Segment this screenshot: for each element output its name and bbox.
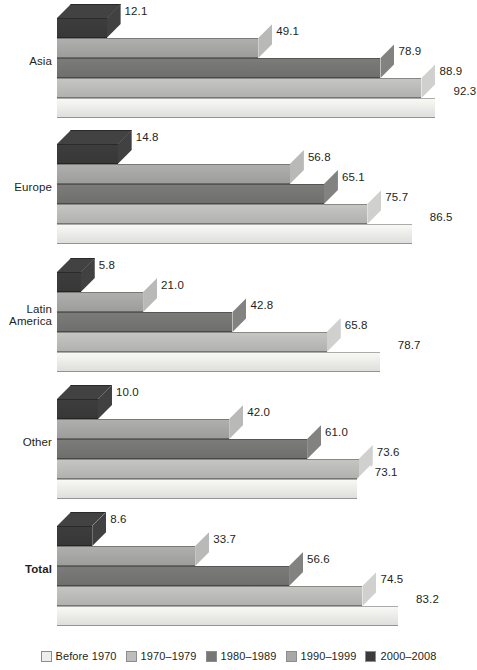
bar-front-face: [57, 58, 380, 78]
legend-swatch-icon: [206, 651, 217, 662]
category-label: Other: [0, 436, 52, 449]
bar-3d[interactable]: [57, 566, 289, 586]
bar-value-label: 83.2: [416, 593, 439, 605]
category-label: Total: [0, 563, 52, 576]
bar-3d[interactable]: [57, 546, 195, 566]
bar-front-face: [57, 292, 143, 312]
bar-front-face: [57, 459, 359, 479]
legend-label: 1980–1989: [221, 650, 277, 662]
bar-3d[interactable]: [57, 38, 258, 58]
bar-front-face: [57, 586, 362, 606]
bar-value-label: 75.7: [385, 191, 408, 203]
bar-value-label: 86.5: [430, 211, 453, 223]
bar-3d[interactable]: [57, 332, 327, 352]
legend-item-3[interactable]: 1990–1999: [286, 650, 357, 662]
bar-end-cap: [367, 190, 381, 224]
bar-value-label: 78.9: [398, 45, 421, 57]
bar-value-label: 5.8: [99, 259, 115, 271]
bar-end-cap: [289, 552, 303, 586]
bar-end-cap: [143, 278, 157, 312]
bar-front-face: [57, 439, 307, 459]
bar-end-cap: [380, 44, 394, 78]
bar-end-cap: [195, 532, 209, 566]
bar-3d[interactable]: [57, 459, 359, 479]
bar-3d[interactable]: [57, 144, 118, 164]
bar-3d[interactable]: [57, 586, 362, 606]
bar-value-label: 65.8: [345, 319, 368, 331]
bar-value-label: 12.1: [125, 5, 148, 17]
bar-value-label: 88.9: [439, 65, 462, 77]
bar-end-cap: [324, 170, 338, 204]
bar-3d[interactable]: [57, 479, 357, 499]
bar-3d[interactable]: [57, 419, 229, 439]
bar-end-cap: [327, 318, 341, 352]
bar-front-face: [57, 204, 367, 224]
bar-plot-area: 14.856.865.175.786.5: [57, 130, 477, 244]
bar-plot-area: 5.821.042.865.878.7: [57, 258, 477, 372]
legend-swatch-icon: [126, 651, 137, 662]
bar-end-cap: [307, 425, 321, 459]
bar-3d[interactable]: [57, 399, 98, 419]
category-label: Latin America: [0, 303, 52, 328]
bar-group-europe: Europe14.856.865.175.786.5: [0, 130, 477, 244]
bar-value-label: 61.0: [325, 426, 348, 438]
bar-front-face: [57, 479, 357, 499]
bar-group-asia: Asia12.149.178.988.992.3: [0, 4, 477, 118]
bar-3d[interactable]: [57, 606, 398, 626]
legend-item-4[interactable]: 2000–2008: [365, 650, 436, 662]
legend-item-0[interactable]: Before 1970: [41, 650, 117, 662]
bar-value-label: 73.1: [375, 466, 398, 478]
chart-canvas: Asia12.149.178.988.992.3Europe14.856.865…: [0, 0, 477, 670]
bar-3d[interactable]: [57, 352, 380, 372]
legend-item-1[interactable]: 1970–1979: [126, 650, 197, 662]
bar-3d[interactable]: [57, 439, 307, 459]
legend-label: Before 1970: [56, 650, 117, 662]
bar-end-cap: [435, 84, 449, 118]
bar-3d[interactable]: [57, 526, 92, 546]
bar-front-face: [57, 144, 118, 164]
bar-plot-area: 12.149.178.988.992.3: [57, 4, 477, 118]
bar-end-cap: [258, 24, 272, 58]
legend-label: 1970–1979: [141, 650, 197, 662]
bar-3d[interactable]: [57, 184, 324, 204]
bar-3d[interactable]: [57, 204, 367, 224]
bar-3d[interactable]: [57, 58, 380, 78]
bar-3d[interactable]: [57, 312, 232, 332]
bar-front-face: [57, 78, 421, 98]
bar-value-label: 65.1: [342, 171, 365, 183]
bar-group-total: Total8.633.756.674.583.2: [0, 512, 477, 626]
bar-front-face: [57, 546, 195, 566]
legend-swatch-icon: [365, 651, 376, 662]
chart-legend: Before 19701970–19791980–19891990–199920…: [0, 650, 477, 662]
bar-value-label: 78.7: [398, 339, 421, 351]
bar-value-label: 92.3: [453, 85, 476, 97]
bar-3d[interactable]: [57, 272, 81, 292]
legend-label: 1990–1999: [301, 650, 357, 662]
bar-front-face: [57, 312, 232, 332]
bar-group-other: Other10.042.061.073.673.1: [0, 385, 477, 499]
legend-item-2[interactable]: 1980–1989: [206, 650, 277, 662]
bar-front-face: [57, 419, 229, 439]
bar-3d[interactable]: [57, 98, 435, 118]
bar-3d[interactable]: [57, 224, 412, 244]
bar-front-face: [57, 606, 398, 626]
bar-value-label: 74.5: [380, 573, 403, 585]
bar-3d[interactable]: [57, 164, 290, 184]
bar-front-face: [57, 18, 107, 38]
legend-label: 2000–2008: [380, 650, 436, 662]
bar-front-face: [57, 526, 92, 546]
bar-front-face: [57, 352, 380, 372]
bar-front-face: [57, 164, 290, 184]
bar-front-face: [57, 272, 81, 292]
bar-end-cap: [398, 592, 412, 626]
bar-plot-area: 8.633.756.674.583.2: [57, 512, 477, 626]
bar-front-face: [57, 184, 324, 204]
bar-3d[interactable]: [57, 78, 421, 98]
bar-3d[interactable]: [57, 292, 143, 312]
bar-front-face: [57, 399, 98, 419]
bar-value-label: 42.0: [247, 406, 270, 418]
bar-value-label: 56.8: [308, 151, 331, 163]
bar-front-face: [57, 224, 412, 244]
bar-3d[interactable]: [57, 18, 107, 38]
bar-front-face: [57, 38, 258, 58]
